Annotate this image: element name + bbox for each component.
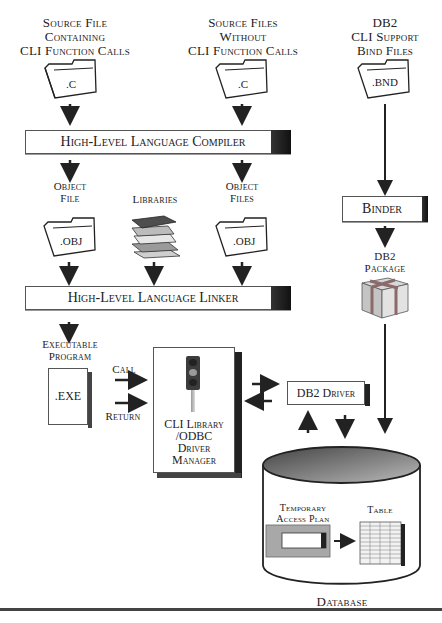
executable-file-icon: .EXE <box>48 368 88 425</box>
label-line: Without <box>176 30 310 44</box>
label-line: Bind Files <box>340 44 430 58</box>
label-source-with-cli: Source File Containing CLI Function Call… <box>10 16 140 58</box>
books-icon <box>132 216 180 258</box>
label-line: Package <box>350 262 420 274</box>
ext-object-file: .OBJ <box>60 235 82 247</box>
ext-source-without-cli: .C <box>238 78 248 90</box>
label-line: DB2 <box>340 16 430 30</box>
label-line: Files <box>212 192 272 204</box>
traffic-light-icon <box>186 356 200 390</box>
label-source-without-cli: Source Files Without CLI Function Calls <box>176 16 310 58</box>
db2-driver-label: DB2 Driver <box>297 386 355 401</box>
label-bind-files: DB2 CLI Support Bind Files <box>340 16 430 58</box>
bar-shadow <box>422 196 428 222</box>
driver-manager-box: CLI Library /ODBC Driver Manager <box>153 347 235 473</box>
label-return: Return <box>98 410 148 422</box>
ext-bind-files: .BND <box>372 76 398 88</box>
box-side-shadow <box>365 384 370 406</box>
label-line: CLI Function Calls <box>176 44 310 58</box>
label-line: Source File <box>10 16 140 30</box>
label-database: Database <box>300 595 384 609</box>
label-line: Object <box>212 180 272 192</box>
label-executable-program: Executable Program <box>30 338 110 362</box>
bar-shadow <box>271 130 291 154</box>
label-temporary-access-plan: Temporary Access Plan <box>268 502 338 524</box>
table-grid-icon <box>360 522 405 566</box>
box-bottom-shadow <box>157 473 241 478</box>
bottom-rule <box>0 608 442 611</box>
label-db2-package: DB2 Package <box>350 250 420 274</box>
label-line: DB2 <box>350 250 420 262</box>
label-line: CLI Function Calls <box>10 44 140 58</box>
diagram-graphics <box>0 0 442 623</box>
bar-shadow <box>271 286 291 310</box>
linker-box: High-Level Language Linker <box>25 286 291 310</box>
compiler-label: High-Level Language Compiler <box>61 134 246 150</box>
temporary-access-plan-icon <box>266 525 330 557</box>
label-line: Object <box>40 180 100 192</box>
label-line: File <box>40 192 100 204</box>
db2-driver-box: DB2 Driver <box>287 381 365 405</box>
ext-object-files: .OBJ <box>233 235 255 247</box>
label-line: Containing <box>10 30 140 44</box>
label-line: Temporary <box>268 502 338 513</box>
exe-label: .EXE <box>55 389 81 404</box>
box-side-shadow <box>235 352 242 478</box>
label-line: Manager <box>154 454 234 466</box>
label-libraries: Libraries <box>120 193 190 205</box>
linker-label: High-Level Language Linker <box>68 290 239 306</box>
driver-manager-label: CLI Library /ODBC Driver Manager <box>154 418 234 466</box>
binder-box: Binder <box>342 196 428 222</box>
traffic-light-pole <box>191 390 195 412</box>
label-call: Call <box>104 363 144 375</box>
box-shadow <box>88 372 92 428</box>
label-line: Access Plan <box>268 513 338 524</box>
label-line: Source Files <box>176 16 310 30</box>
binder-label: Binder <box>362 201 402 217</box>
label-object-files: Object Files <box>212 180 272 204</box>
label-object-file: Object File <box>40 180 100 204</box>
db2-package-icon <box>362 278 408 318</box>
label-table: Table <box>358 504 402 516</box>
ext-source-with-cli: .C <box>66 78 76 90</box>
label-line: Program <box>30 350 110 362</box>
label-line: CLI Support <box>340 30 430 44</box>
compiler-box: High-Level Language Compiler <box>25 130 291 154</box>
label-line: Executable <box>30 338 110 350</box>
